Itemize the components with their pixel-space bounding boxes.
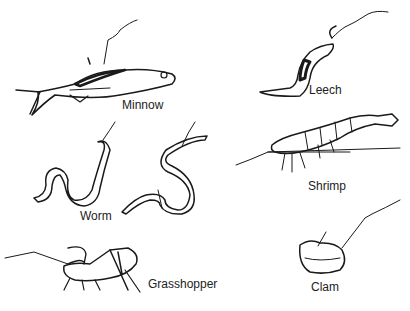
- grasshopper-label: Grasshopper: [148, 278, 217, 291]
- grasshopper-drawing: [5, 247, 140, 292]
- fishing-line-icon: [104, 20, 137, 64]
- clam-label: Clam: [311, 281, 339, 294]
- worm-drawing-right: [122, 122, 207, 214]
- fishing-line-icon: [103, 122, 115, 140]
- worm-label: Worm: [80, 210, 112, 223]
- bait-illustration: Minnow Leech Worm Shrimp Grasshopper Cla…: [0, 0, 410, 311]
- worm-drawing-left: [34, 122, 115, 206]
- fishing-line-icon: [332, 11, 388, 38]
- shrimp-label: Shrimp: [308, 180, 346, 193]
- shrimp-drawing: [236, 114, 400, 172]
- fishing-line-icon: [342, 200, 400, 248]
- clam-drawing: [300, 200, 400, 273]
- bait-drawings: [0, 0, 410, 311]
- leech-label: Leech: [309, 84, 342, 97]
- minnow-label: Minnow: [122, 99, 163, 112]
